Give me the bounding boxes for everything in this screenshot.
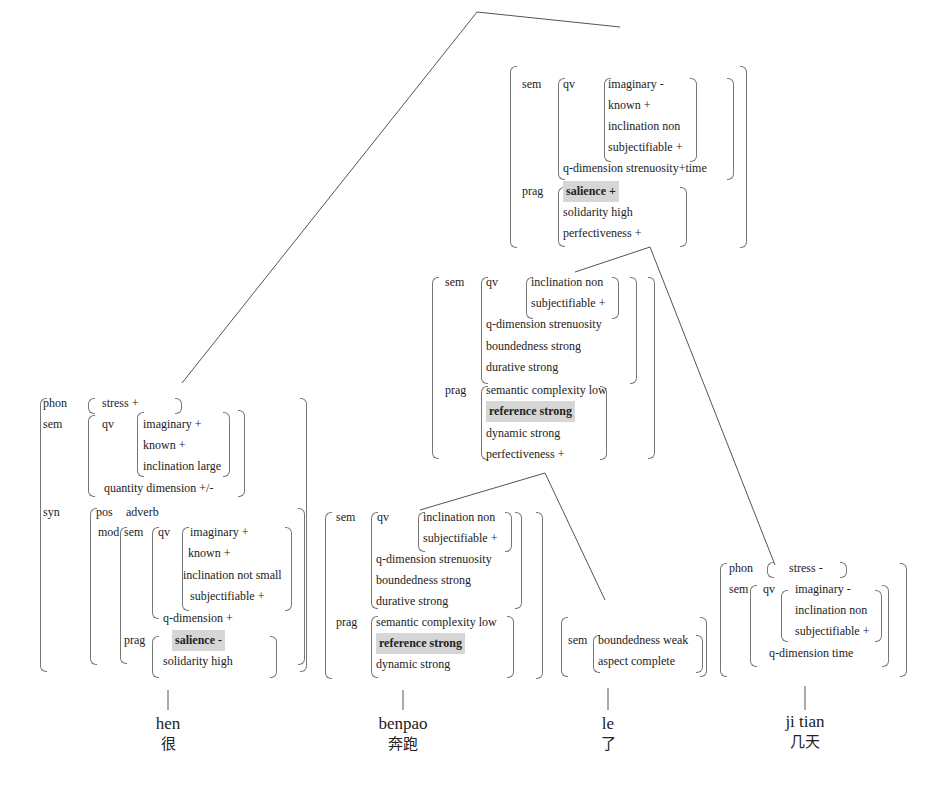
feature-value: q-dimension + — [163, 608, 233, 629]
feature-label: sem — [445, 272, 464, 293]
feature-value: semantic complexity low — [376, 612, 497, 633]
feature-label: sem — [729, 579, 748, 600]
leaf-word-hen: hen 很 — [138, 714, 198, 754]
hanzi: 奔跑 — [363, 734, 443, 754]
feature-label: phon — [729, 558, 753, 579]
feature-value: durative strong — [376, 591, 448, 612]
feature-value: perfectiveness + — [486, 444, 564, 465]
feature-value: subjectifiable + — [795, 621, 869, 642]
feature-label: mod — [98, 522, 119, 543]
feature-value: durative strong — [486, 357, 558, 378]
hanzi: 了 — [588, 734, 628, 754]
feature-value: subjectifiable + — [608, 137, 682, 158]
feature-value: inclination not small — [183, 565, 282, 586]
pinyin: benpao — [363, 714, 443, 734]
tree-branches — [0, 0, 945, 796]
pinyin: le — [588, 714, 628, 734]
feature-value: semantic complexity low — [486, 380, 607, 401]
feature-value: stress - — [789, 558, 823, 579]
feature-value: inclination non — [531, 272, 603, 293]
feature-label: sem — [124, 522, 143, 543]
feature-label: sem — [568, 630, 587, 651]
feature-value: subjectifiable + — [423, 528, 497, 549]
feature-value: inclination non — [795, 600, 867, 621]
highlighted-feature: reference strong — [376, 633, 465, 654]
feature-value: inclination large — [143, 456, 221, 477]
feature-value: q-dimension strenuosity — [486, 314, 602, 335]
feature-value: subjectifiable + — [190, 586, 264, 607]
highlighted-feature: salience - — [172, 630, 225, 651]
feature-label: sem — [336, 507, 355, 528]
leaf-word-le: le 了 — [588, 714, 628, 754]
feature-label: pos — [96, 502, 113, 523]
hanzi: 几天 — [770, 732, 840, 752]
feature-label: qv — [486, 272, 498, 293]
feature-label: qv — [158, 522, 170, 543]
feature-label: phon — [43, 393, 67, 414]
feature-value: known + — [608, 95, 650, 116]
feature-value: solidarity high — [163, 651, 233, 672]
feature-value: aspect complete — [598, 651, 675, 672]
feature-value: adverb — [126, 502, 159, 523]
feature-value: quantity dimension +/- — [104, 478, 213, 499]
feature-label: qv — [763, 579, 775, 600]
feature-value: boundedness weak — [598, 630, 688, 651]
highlighted-feature: salience + — [563, 181, 619, 202]
feature-label: prag — [336, 612, 357, 633]
feature-value: subjectifiable + — [531, 293, 605, 314]
feature-value: imaginary - — [795, 579, 851, 600]
pinyin: ji tian — [770, 712, 840, 732]
feature-label: sem — [522, 74, 541, 95]
feature-value: inclination non — [608, 116, 680, 137]
hanzi: 很 — [138, 734, 198, 754]
feature-value: q-dimension time — [769, 643, 853, 664]
feature-label: sem — [43, 414, 62, 435]
feature-value: imaginary + — [190, 522, 248, 543]
feature-label: qv — [377, 507, 389, 528]
feature-value: inclination non — [423, 507, 495, 528]
feature-value: stress + — [102, 393, 138, 414]
highlighted-feature: reference strong — [486, 401, 575, 422]
feature-label: prag — [522, 181, 543, 202]
feature-label: prag — [445, 380, 466, 401]
feature-value: imaginary - — [608, 74, 664, 95]
feature-value: boundedness strong — [376, 570, 471, 591]
feature-value: solidarity high — [563, 202, 633, 223]
feature-value: q-dimension strenuosity+time — [563, 158, 707, 179]
leaf-word-benpao: benpao 奔跑 — [363, 714, 443, 754]
feature-value: known + — [188, 543, 230, 564]
leaf-word-jitian: ji tian 几天 — [770, 712, 840, 752]
feature-value: imaginary + — [143, 414, 201, 435]
feature-value: dynamic strong — [376, 654, 450, 675]
feature-value: q-dimension strenuosity — [376, 549, 492, 570]
feature-label: syn — [43, 502, 60, 523]
feature-value: perfectiveness + — [563, 223, 641, 244]
feature-label: qv — [102, 414, 114, 435]
feature-label: qv — [563, 74, 575, 95]
feature-value: dynamic strong — [486, 423, 560, 444]
pinyin: hen — [138, 714, 198, 734]
feature-label: prag — [124, 630, 145, 651]
feature-value: known + — [143, 435, 185, 456]
feature-value: boundedness strong — [486, 336, 581, 357]
